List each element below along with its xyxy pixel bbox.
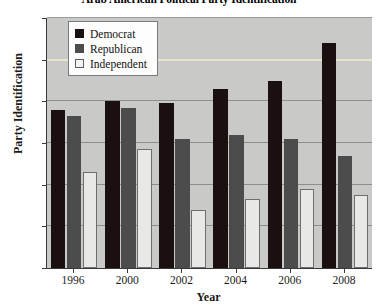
x-tick-mark <box>344 269 345 273</box>
x-tick-mark <box>181 269 182 273</box>
x-tick-label-2002: 2002 <box>151 274 211 286</box>
bar-democrat-2004 <box>213 89 228 268</box>
bar-independent-2002 <box>191 210 206 268</box>
chart-title: Arab American Political Party Identifica… <box>0 0 378 5</box>
bar-independent-2006 <box>300 189 315 268</box>
legend-label: Democrat <box>90 28 135 40</box>
bar-democrat-2006 <box>268 81 283 269</box>
x-tick-mark <box>236 269 237 273</box>
chart-legend: DemocratRepublicanIndependent <box>68 21 158 76</box>
legend-label: Independent <box>90 58 147 70</box>
x-tick-label-2004: 2004 <box>206 274 266 286</box>
legend-item-democrat: Democrat <box>75 26 147 41</box>
legend-swatch-icon <box>75 44 84 53</box>
bar-democrat-1996 <box>51 110 66 268</box>
legend-item-independent: Independent <box>75 56 147 71</box>
bar-democrat-2002 <box>159 103 174 268</box>
bar-republican-1996 <box>67 116 82 268</box>
bar-group-2008 <box>322 18 369 268</box>
bar-group-2002 <box>159 18 206 268</box>
bar-republican-2004 <box>229 135 244 268</box>
legend-label: Republican <box>90 43 142 55</box>
bar-democrat-2008 <box>322 43 337 268</box>
bar-republican-2008 <box>338 156 353 269</box>
bar-independent-2000 <box>137 149 152 268</box>
bar-group-2006 <box>268 18 315 268</box>
bar-independent-1996 <box>83 172 98 268</box>
x-tick-mark <box>127 269 128 273</box>
x-tick-label-2000: 2000 <box>97 274 157 286</box>
x-tick-label-1996: 1996 <box>43 274 103 286</box>
x-tick-label-2006: 2006 <box>260 274 320 286</box>
chart-figure: Arab American Political Party Identifica… <box>0 0 378 307</box>
x-axis-title: Year <box>46 290 371 305</box>
bar-republican-2002 <box>175 139 190 268</box>
x-tick-label-2008: 2008 <box>314 274 374 286</box>
legend-item-republican: Republican <box>75 41 147 56</box>
x-tick-mark <box>73 269 74 273</box>
legend-swatch-icon <box>75 59 84 68</box>
legend-swatch-icon <box>75 29 84 38</box>
bar-democrat-2000 <box>105 101 120 268</box>
bar-independent-2004 <box>245 199 260 268</box>
y-axis-title: Party Identification <box>11 24 26 184</box>
x-tick-mark <box>290 269 291 273</box>
bar-independent-2008 <box>354 195 369 268</box>
bar-republican-2006 <box>284 139 299 268</box>
bar-republican-2000 <box>121 108 136 268</box>
bar-group-2004 <box>213 18 260 268</box>
